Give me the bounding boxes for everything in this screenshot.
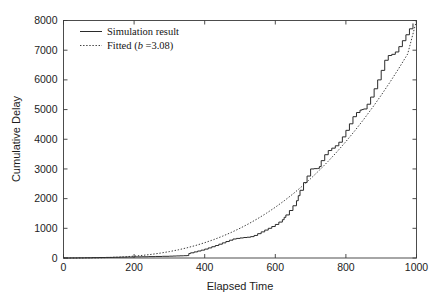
legend-label-simulation-result: Simulation result — [107, 26, 179, 37]
y-tick-label: 2000 — [34, 192, 58, 204]
x-tick-label: 200 — [125, 261, 143, 273]
x-tick-label: 600 — [267, 261, 285, 273]
y-axis-tick-labels: 010002000300040005000600070008000 — [34, 14, 58, 264]
plot-frame — [64, 21, 417, 259]
y-tick-label: 6000 — [34, 73, 58, 85]
x-axis-tick-labels: 02004006008001000 — [61, 261, 429, 273]
y-tick-label: 5000 — [34, 103, 58, 115]
x-tick-label: 0 — [61, 261, 67, 273]
series-fitted-curve — [64, 21, 417, 259]
y-axis-title: Cumulative Delay — [10, 95, 22, 182]
legend-label-fitted: Fitted (b =3.08) — [107, 40, 174, 52]
chart-legend: Simulation result Fitted (b =3.08) — [80, 26, 179, 52]
x-tick-label: 400 — [196, 261, 214, 273]
x-tick-label: 800 — [337, 261, 355, 273]
chart-canvas: 02004006008001000 0100020003000400050006… — [0, 0, 447, 302]
y-axis-ticks — [64, 21, 417, 259]
series-simulation-result — [64, 23, 413, 258]
x-axis-ticks — [64, 21, 417, 259]
y-tick-label: 7000 — [34, 44, 58, 56]
x-axis-title: Elapsed Time — [207, 280, 274, 292]
y-tick-label: 1000 — [34, 222, 58, 234]
chart-figure: 02004006008001000 0100020003000400050006… — [0, 0, 447, 302]
y-tick-label: 8000 — [34, 14, 58, 26]
y-tick-label: 0 — [52, 252, 58, 264]
y-tick-label: 3000 — [34, 163, 58, 175]
y-tick-label: 4000 — [34, 133, 58, 145]
x-tick-label: 1000 — [405, 261, 429, 273]
